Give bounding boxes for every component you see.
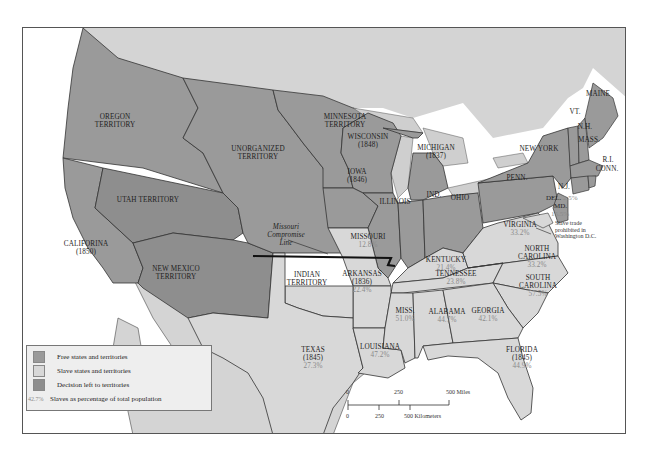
label-delaware: DEL. 2.5% [546,195,578,202]
label-california: CALIFORINA(1850) [64,240,109,256]
legend-item-percentage: 42.7% Slaves as percentage of total popu… [28,393,161,405]
label-missouri: MISSOURI12.8% [350,233,385,249]
label-georgia: GEORGIA42.1% [471,307,504,323]
label-mississippi: MISS.51.0% [395,307,414,323]
label-alabama: ALABAMA44.7% [428,308,465,324]
label-maryland-pct: 15.5% [551,211,569,218]
label-texas: TEXAS(1845)27.3% [301,346,325,370]
label-unorganized-territory: UNORGANIZEDTERRITORY [231,145,284,161]
legend-swatch-decision [33,379,45,391]
label-maryland: MD. [554,203,567,210]
scale-miles-500: 500 Miles [446,389,470,395]
legend-item-decision: Decision left to territories [33,379,129,391]
label-vermont: VT. [569,108,580,116]
label-indian-territory: INDIANTERRITORY [287,271,328,287]
label-michigan: MICHIGAN(1837) [417,144,455,160]
label-penn: PENN. [506,174,527,182]
connecticut-state [571,176,589,194]
label-missouri-compromise-line: MissouriCompromiseLine [267,223,304,247]
label-south-carolina: SOUTHCAROLINA57.5% [519,274,557,298]
label-louisiana: LOUISIANA47.2% [360,343,400,359]
legend-swatch-slave [33,365,45,377]
vermont-state [568,126,579,166]
label-wisconsin: WISCONSIN(1848) [348,133,389,149]
label-massachusetts: MASS. [578,136,600,144]
scale-km-0: 0 [346,413,349,419]
scale-miles-0: 0 [346,389,349,395]
scale-km-250: 250 [375,413,384,419]
legend-swatch-free [33,351,45,363]
label-utah-territory: UTAH TERRITORY [117,196,179,204]
label-new-jersey: N.J. [558,183,570,191]
label-florida: FLORIDA(1845)44.9% [506,346,538,370]
label-ohio: OHIO [451,194,469,202]
dc-slave-trade-note: Slave trade prohibited in Washington D.C… [555,220,596,240]
label-illinois: ILLINOIS [379,198,410,206]
label-new-mexico-territory: NEW MEXICOTERRITORY [152,265,199,281]
scale-miles-250: 250 [394,389,403,395]
label-virginia: VIRGINIA33.2% [503,221,537,237]
map-legend: Free states and territories Slave states… [26,345,212,411]
legend-item-slave: Slave states and territories [33,365,131,377]
map-frame: OREGONTERRITORY UNORGANIZEDTERRITORY MIN… [22,27,626,434]
label-arkansas: ARKANSAS(1836)22.4% [342,270,382,294]
rhode-island-state [588,176,596,188]
indiana-state [398,200,425,268]
label-indiana: IND. [427,191,442,199]
label-oregon-territory: OREGONTERRITORY [95,113,136,129]
label-minnesota-territory: MINNESOTATERRITORY [324,113,367,129]
scale-km-500: 500 Kilometers [404,413,441,419]
label-iowa: IOWA(1846) [347,168,367,184]
label-maine: MAINE [586,90,610,98]
label-tennessee: TENNESSEE23.8% [435,270,476,286]
scale-bar: 0 250 500 Miles 0 250 500 Kilometers [346,385,486,425]
label-new-hampshire: N.H. [578,123,592,131]
legend-item-free: Free states and territories [33,351,128,363]
label-rhode-island: R.I. [602,156,613,164]
label-north-carolina: NORTHCAROLINA33.2% [518,245,556,269]
label-connecticut: CONN. [596,165,619,173]
label-new-york: NEW YORK [520,145,559,153]
